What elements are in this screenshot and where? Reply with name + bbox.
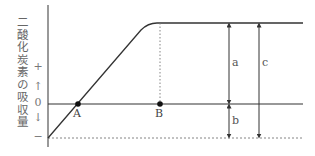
y-axis-label: 二酸化炭素の吸収量 (14, 16, 30, 129)
co2-absorption-diagram (0, 0, 315, 156)
point-a-label: A (73, 107, 81, 120)
dimension-label-b: b (232, 114, 239, 127)
point-b (157, 101, 163, 107)
absorption-curve (48, 23, 303, 138)
tick-plus: + (31, 60, 45, 73)
tick-minus: − (31, 130, 45, 143)
dimension-label-a: a (232, 56, 239, 69)
tick-up-arrow-icon: ↑ (31, 80, 45, 93)
point-a (75, 101, 81, 107)
dimension-label-c: c (262, 56, 268, 69)
tick-down-arrow-icon: ↓ (31, 111, 45, 124)
tick-zero: 0 (31, 96, 45, 109)
point-b-label: B (155, 107, 163, 120)
